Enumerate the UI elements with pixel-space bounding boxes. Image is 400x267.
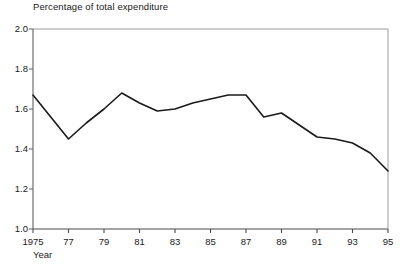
x-axis-tick-label: 87 xyxy=(241,236,252,247)
y-axis-tick-label: 1.0 xyxy=(2,223,28,234)
x-axis-tick-label: 93 xyxy=(347,236,358,247)
plot-frame xyxy=(33,29,388,229)
x-axis-tick-label: 89 xyxy=(276,236,287,247)
x-axis-tick-label: 83 xyxy=(170,236,181,247)
x-axis-tick-label: 1975 xyxy=(22,236,43,247)
y-axis-tick-label: 1.8 xyxy=(2,63,28,74)
x-axis-ticks xyxy=(33,229,388,233)
y-axis-tick-label: 1.6 xyxy=(2,103,28,114)
x-axis-tick-label: 77 xyxy=(63,236,74,247)
y-axis-tick-label: 1.2 xyxy=(2,183,28,194)
y-axis-tick-label: 1.4 xyxy=(2,143,28,154)
y-axis-tick-label: 2.0 xyxy=(2,23,28,34)
line-chart-plot xyxy=(0,0,400,267)
data-series-line xyxy=(33,93,388,171)
x-axis-tick-label: 91 xyxy=(312,236,323,247)
plot-frame-border xyxy=(33,29,388,229)
x-axis-tick-label: 79 xyxy=(99,236,110,247)
x-axis-tick-label: 81 xyxy=(134,236,145,247)
x-axis-tick-label: 85 xyxy=(205,236,216,247)
x-axis-tick-label: 95 xyxy=(383,236,394,247)
chart-figure: Percentage of total expenditure 1.01.21.… xyxy=(0,0,400,267)
x-axis-title: Year xyxy=(33,249,52,260)
